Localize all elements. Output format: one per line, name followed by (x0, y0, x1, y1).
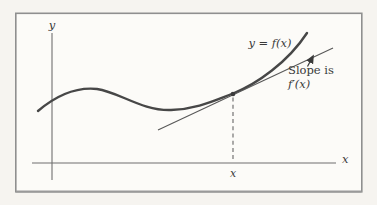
slope-caption-line1: Slope is (288, 63, 334, 77)
tangency-x-tick-label: x (230, 167, 237, 180)
x-axis-label: x (342, 152, 349, 166)
textbook-figure: y x y = f(x) Slope is f′(x) x (0, 0, 377, 205)
tangency-point-dot (231, 92, 236, 97)
curve-equation-label: y = f(x) (247, 36, 291, 50)
slope-caption-line2: f′(x) (287, 77, 310, 91)
figure-canvas: y x y = f(x) Slope is f′(x) x (0, 0, 377, 205)
y-axis-label: y (48, 18, 56, 32)
figure-frame (16, 13, 362, 192)
